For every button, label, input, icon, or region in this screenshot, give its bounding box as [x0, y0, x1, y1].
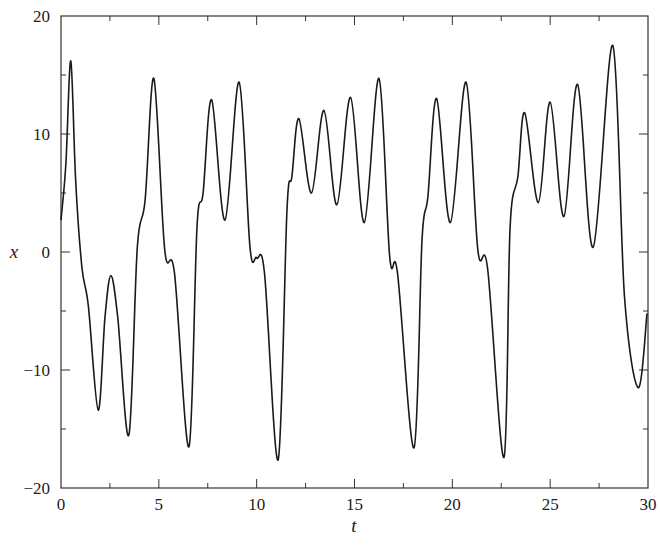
x-tick-label: 25	[542, 495, 559, 514]
x-axis-label: t	[351, 515, 357, 536]
x-tick-label: 20	[444, 495, 461, 514]
y-tick-label: −10	[23, 361, 50, 380]
series-line-x	[61, 45, 647, 460]
x-tick-label: 10	[248, 495, 265, 514]
y-tick-label: −20	[23, 479, 50, 498]
line-chart: 051015202530−20−1001020 t x	[0, 0, 660, 554]
y-tick-label: 10	[33, 125, 50, 144]
axis-ticks	[61, 16, 648, 488]
tick-labels: 051015202530−20−1001020	[23, 7, 656, 514]
x-tick-label: 5	[155, 495, 164, 514]
y-tick-label: 20	[33, 7, 50, 26]
x-tick-label: 0	[57, 495, 66, 514]
plot-frame	[61, 16, 648, 488]
x-tick-label: 15	[346, 495, 363, 514]
x-tick-label: 30	[640, 495, 657, 514]
y-tick-label: 0	[42, 243, 51, 262]
y-axis-label: x	[9, 241, 19, 262]
